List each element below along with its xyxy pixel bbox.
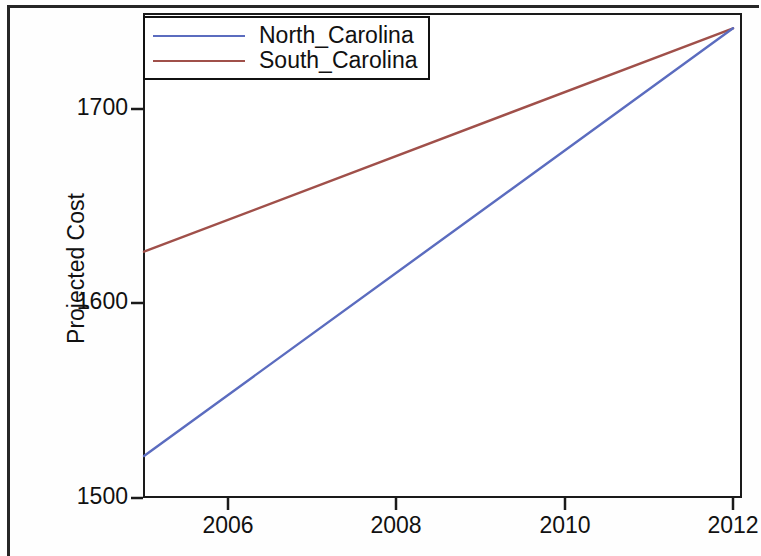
y-axis-ticks xyxy=(131,109,143,498)
scanned-page: 1700 1600 1500 2006 2008 2010 2012 Proje… xyxy=(0,0,761,556)
chart-figure: 1700 1600 1500 2006 2008 2010 2012 Proje… xyxy=(0,0,761,556)
legend-swatch-north-carolina xyxy=(153,35,245,37)
chart-legend: North_Carolina South_Carolina xyxy=(143,16,430,80)
legend-swatch-south-carolina xyxy=(153,60,245,62)
x-tick-label-2010: 2010 xyxy=(510,512,620,539)
legend-label-south-carolina: South_Carolina xyxy=(259,49,418,72)
y-axis-title: Projected Cost xyxy=(63,159,90,379)
series-line-north-carolina xyxy=(144,28,733,456)
legend-label-north-carolina: North_Carolina xyxy=(259,24,414,47)
legend-entry-north-carolina: North_Carolina xyxy=(153,23,418,48)
x-axis-ticks xyxy=(228,498,733,510)
legend-entry-south-carolina: South_Carolina xyxy=(153,48,418,73)
x-tick-label-2008: 2008 xyxy=(341,512,451,539)
x-tick-label-2006: 2006 xyxy=(173,512,283,539)
x-tick-label-2012: 2012 xyxy=(678,512,761,539)
y-axis-title-holder: Projected Cost xyxy=(30,0,31,556)
y-tick-label-1700: 1700 xyxy=(48,96,128,119)
y-tick-label-1500: 1500 xyxy=(48,485,128,508)
